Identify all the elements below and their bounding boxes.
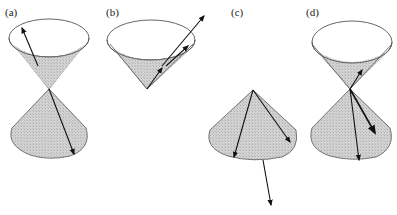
panel-d: (d) [306,6,392,160]
panel-a: (a) [5,6,89,158]
panel-label-c: (c) [231,6,244,19]
past-cone [209,90,297,160]
panel-b: (b) [106,6,204,89]
panel-label-d: (d) [306,6,319,19]
light-cone-figure: (a) (b) (c) (d) [0,0,397,215]
panel-c: (c) [209,6,297,205]
panel-label-b: (b) [106,6,119,19]
panel-label-a: (a) [5,6,18,19]
outside-vector-arrow [263,160,271,205]
